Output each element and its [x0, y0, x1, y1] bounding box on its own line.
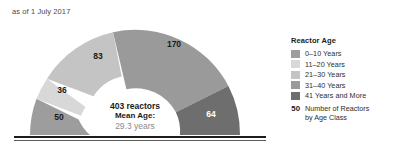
legend: Reactor Age 0–10 Years 11–20 Years 21–30… — [291, 36, 395, 122]
slice-label-31-40-years: 170 — [167, 39, 181, 49]
legend-note: 50 Number of Reactors by Age Class — [291, 104, 395, 122]
legend-swatch-icon — [291, 50, 300, 58]
legend-item-11-20-years: 11–20 Years — [291, 59, 395, 70]
legend-item-41-years-and-more: 41 Years and More — [291, 91, 395, 102]
legend-note-text: Number of Reactors by Age Class — [305, 104, 369, 122]
legend-item-label: 21–30 Years — [305, 70, 346, 79]
legend-note-line-1: Number of Reactors — [305, 104, 369, 113]
legend-item-label: 31–40 Years — [305, 81, 346, 90]
slice-label-11-20-years: 36 — [57, 85, 66, 95]
slice-label-21-30-years: 83 — [93, 51, 102, 61]
total-reactors-label: 403 reactors — [75, 101, 195, 111]
legend-item-label: 11–20 Years — [305, 60, 345, 69]
baseline-rule-thin — [14, 140, 266, 141]
legend-item-21-30-years: 21–30 Years — [291, 70, 395, 81]
slice-label-0-10-years: 50 — [54, 112, 63, 122]
mean-age-label: Mean Age: — [75, 111, 195, 121]
legend-note-number: 50 — [291, 104, 300, 114]
legend-title: Reactor Age — [291, 36, 395, 45]
legend-swatch-icon — [291, 71, 300, 79]
legend-swatch-icon — [291, 60, 300, 68]
legend-note-line-2: by Age Class — [305, 113, 369, 122]
baseline-rule-thick — [14, 136, 266, 138]
legend-swatch-icon — [291, 81, 300, 89]
legend-item-label: 41 Years and More — [305, 91, 366, 100]
legend-item-31-40-years: 31–40 Years — [291, 80, 395, 91]
legend-item-label: 0–10 Years — [305, 49, 341, 58]
slice-label-41-years-and-more: 64 — [206, 109, 215, 119]
legend-item-0-10-years: 0–10 Years — [291, 49, 395, 60]
legend-swatch-icon — [291, 92, 300, 100]
mean-age-value: 29.3 years — [75, 121, 195, 131]
center-summary: 403 reactors Mean Age: 29.3 years — [75, 101, 195, 131]
half-donut-chart: 50 36 83 170 64 403 reactors Mean Age: 2… — [0, 0, 272, 149]
reactor-age-chart-page: as of 1 July 2017 50 36 83 170 64 403 re… — [0, 0, 395, 149]
